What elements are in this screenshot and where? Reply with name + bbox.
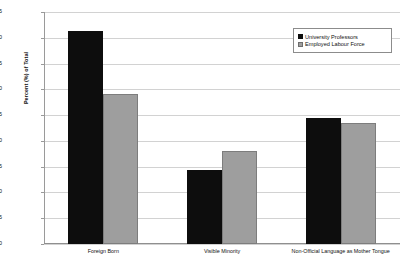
y-axis-tick-label: 35 (0, 61, 2, 66)
y-axis-tick-label: 5 (0, 215, 2, 220)
black-square-swatch-icon (298, 34, 303, 39)
bar[interactable] (222, 151, 257, 244)
legend-item[interactable]: Employed Labour Force (298, 41, 388, 47)
y-axis-title: Percent (%) of Total (23, 28, 29, 128)
bar[interactable] (103, 94, 138, 244)
chart-title (0, 0, 408, 6)
legend-item[interactable]: University Professors (298, 34, 388, 40)
y-axis-tick-label: 40 (0, 35, 2, 40)
legend-item-label: University Professors (305, 34, 358, 40)
legend-item-label: Employed Labour Force (305, 41, 365, 47)
y-axis-tick-label: 0 (0, 241, 2, 246)
x-axis-category-label: Visible Minority (167, 248, 277, 255)
y-axis-tick-label: 15 (0, 164, 2, 169)
y-axis-tick-mark (41, 244, 44, 245)
chart-legend: University Professors Employed Labour Fo… (293, 28, 392, 53)
bar[interactable] (68, 31, 103, 244)
bar[interactable] (306, 118, 341, 244)
gray-square-swatch-icon (298, 42, 303, 47)
y-axis-tick-label: 20 (0, 138, 2, 143)
bar[interactable] (187, 170, 222, 244)
y-axis-tick-label: 10 (0, 189, 2, 194)
y-axis-tick-label: 30 (0, 86, 2, 91)
bar[interactable] (341, 123, 376, 244)
x-axis-category-label: Foreign Born (48, 248, 158, 255)
gridline (44, 244, 400, 245)
bar-chart: Percent (%) of Total 454035302520151050 … (0, 0, 408, 273)
y-axis-tick-label: 25 (0, 112, 2, 117)
x-axis-category-label: Non-Official Language as Mother Tongue (286, 248, 396, 255)
y-axis-tick-label: 45 (0, 9, 2, 14)
